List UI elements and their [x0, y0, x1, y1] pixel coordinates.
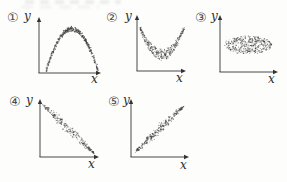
- plot-1-x-axis-label: x: [91, 73, 98, 85]
- scatter-plots: [0, 0, 287, 182]
- plot-3-x-axis-label: x: [268, 73, 275, 85]
- plot-4-y-axis-label: y: [26, 94, 33, 106]
- plot-4-x-axis-label: x: [88, 158, 95, 170]
- plot-1-y-axis-label: y: [24, 10, 31, 22]
- plot-5-x-axis-label: x: [180, 159, 187, 171]
- plot-2-y-axis-label: y: [125, 10, 132, 22]
- plot-3-number-label: ③: [195, 11, 207, 24]
- figure-canvas: ① y x ② y x ③ y x ④ y x ⑤ y x: [0, 0, 287, 182]
- plot-3-y-axis-label: y: [211, 10, 218, 22]
- plot-2-number-label: ②: [106, 11, 118, 24]
- plot-5-number-label: ⑤: [108, 95, 120, 108]
- plot-5-y-axis-label: y: [123, 94, 130, 106]
- plot-2-x-axis-label: x: [176, 72, 183, 84]
- plot-1-number-label: ①: [7, 11, 19, 24]
- plot-4-number-label: ④: [9, 95, 21, 108]
